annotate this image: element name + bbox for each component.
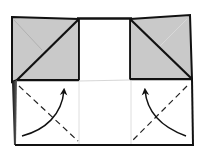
origami-diagram [0,0,205,158]
left-flap [12,17,79,82]
bottom-panel [12,79,194,145]
right-flap [130,15,192,79]
center-opening [77,19,132,81]
